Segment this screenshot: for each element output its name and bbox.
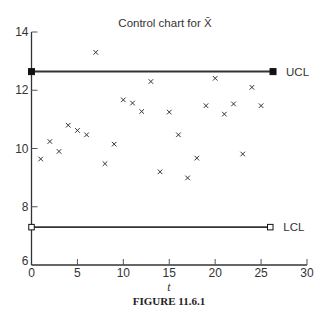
x-tick-label: 30 xyxy=(300,266,314,280)
axes xyxy=(32,32,308,265)
x-tick-label: 25 xyxy=(254,266,268,280)
data-point-x-marker xyxy=(48,139,53,144)
lcl-label: LCL xyxy=(283,221,305,233)
lcl-start-marker xyxy=(29,224,35,230)
control-chart: Control chart for X̄ 0510152025306810121… xyxy=(0,0,328,313)
ucl-end-marker xyxy=(270,69,276,75)
data-point-x-marker xyxy=(139,109,144,114)
data-point-x-marker xyxy=(204,103,209,108)
x-tick-label: 10 xyxy=(117,266,131,280)
x-tick-label: 15 xyxy=(163,266,177,280)
data-point-x-marker xyxy=(130,101,135,106)
data-points xyxy=(38,50,263,180)
data-point-x-marker xyxy=(195,156,200,161)
x-tick-label: 0 xyxy=(28,266,35,280)
data-point-x-marker xyxy=(149,79,154,84)
chart-title: Control chart for X̄ xyxy=(118,17,212,29)
data-point-x-marker xyxy=(112,142,117,147)
data-point-x-marker xyxy=(57,149,62,154)
data-point-x-marker xyxy=(231,102,236,107)
x-tick-label: 5 xyxy=(74,266,81,280)
data-point-x-marker xyxy=(222,112,227,117)
data-point-x-marker xyxy=(84,133,89,138)
y-tick-label: 10 xyxy=(15,142,29,156)
data-point-x-marker xyxy=(176,133,181,138)
data-point-x-marker xyxy=(213,76,218,81)
lcl-end-marker xyxy=(268,224,274,230)
y-tick-label: 8 xyxy=(22,200,29,214)
x-axis-label: t xyxy=(167,280,171,294)
ucl-start-marker xyxy=(29,69,35,75)
control-limit-lines: UCLLCL xyxy=(29,66,310,234)
data-point-x-marker xyxy=(185,176,190,181)
x-tick-label: 20 xyxy=(208,266,222,280)
data-point-x-marker xyxy=(75,128,80,133)
ucl-label: UCL xyxy=(286,66,310,78)
data-point-x-marker xyxy=(240,152,245,157)
data-point-x-marker xyxy=(38,157,43,162)
data-point-x-marker xyxy=(121,98,126,103)
y-tick-label: 14 xyxy=(15,25,29,39)
figure-caption: FIGURE 11.6.1 xyxy=(133,295,205,307)
y-tick-label: 6 xyxy=(22,254,29,268)
data-point-x-marker xyxy=(259,103,264,108)
data-point-x-marker xyxy=(167,110,172,115)
data-point-x-marker xyxy=(66,123,71,128)
data-point-x-marker xyxy=(93,50,98,55)
y-tick-label: 12 xyxy=(15,83,29,97)
data-point-x-marker xyxy=(158,170,163,175)
data-point-x-marker xyxy=(250,85,255,90)
data-point-x-marker xyxy=(103,161,108,166)
